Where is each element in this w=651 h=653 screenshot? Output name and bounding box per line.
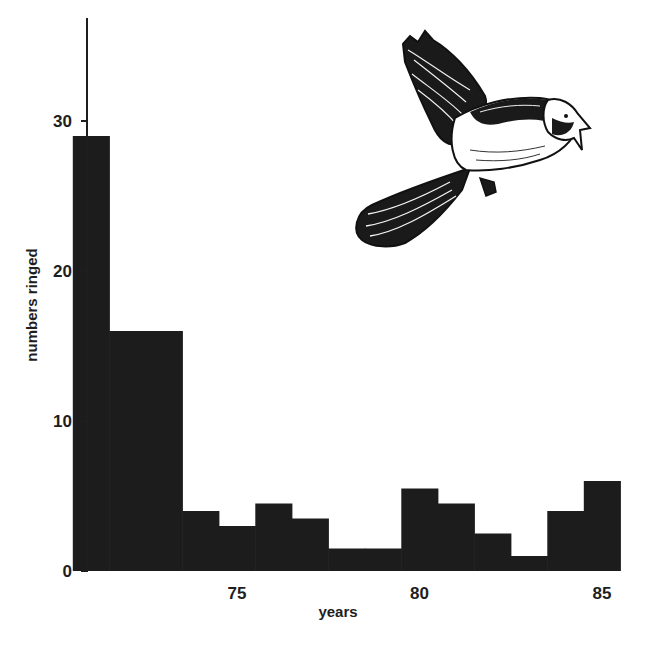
bar-75 — [219, 526, 256, 571]
x-tick-label: 75 — [228, 584, 247, 603]
x-tick-label: 80 — [410, 584, 429, 603]
bar-84 — [547, 511, 584, 571]
histogram-chart: 0102030 758085 years numbers ringed — [0, 0, 651, 653]
bar-series — [73, 136, 621, 571]
y-tick-label: 0 — [63, 562, 72, 581]
bar-76 — [255, 504, 292, 572]
bar-79 — [365, 549, 402, 572]
bar-77 — [292, 519, 329, 572]
bar-73 — [146, 331, 183, 571]
x-tick-label: 85 — [593, 584, 612, 603]
y-axis-title: numbers ringed — [23, 248, 40, 361]
bar-80 — [401, 489, 438, 572]
bar-74 — [182, 511, 219, 571]
bar-71 — [73, 136, 110, 571]
y-tick-label: 20 — [53, 262, 72, 281]
bar-78 — [328, 549, 365, 572]
bar-81 — [438, 504, 475, 572]
bar-72 — [109, 331, 146, 571]
y-tick-label: 30 — [53, 112, 72, 131]
x-axis-title: years — [318, 603, 357, 620]
flying-bird-illustration-icon — [356, 31, 590, 246]
bar-85 — [584, 481, 621, 571]
bar-83 — [511, 556, 548, 571]
bar-82 — [474, 534, 511, 572]
x-axis-ticks: 758085 — [228, 584, 612, 603]
chart-canvas: 0102030 758085 years numbers ringed — [0, 0, 651, 653]
y-tick-label: 10 — [53, 412, 72, 431]
